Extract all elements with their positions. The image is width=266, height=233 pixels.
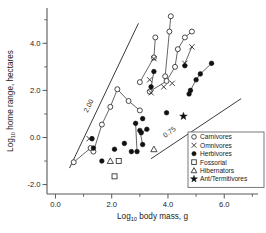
legend-label-fossorial: Fossorial — [200, 159, 227, 166]
data-point-carnivores — [153, 35, 158, 40]
legend: CarnivoresOmnivoresHerbivoresFossorialHi… — [188, 132, 264, 187]
legend-label-omnivores: Omnivores — [200, 142, 233, 149]
data-point-carnivores — [115, 87, 120, 92]
data-point-herbivores — [135, 149, 140, 154]
data-point-hibernators — [107, 158, 113, 164]
data-point-herbivores — [198, 72, 203, 77]
series-connector-herbivores — [136, 123, 137, 151]
data-point-omnivores — [161, 84, 166, 89]
data-point-carnivores — [167, 29, 172, 34]
data-point-herbivores — [139, 130, 144, 135]
data-point-herbivores — [209, 61, 214, 66]
series-connector-carnivores — [154, 37, 155, 57]
data-point-carnivores — [189, 29, 194, 34]
data-point-herbivores — [133, 121, 138, 126]
chart-figure: 0.02.04.06.0-2.00.02.04.0 2.000.75 Log10… — [0, 0, 266, 233]
data-point-herbivores — [112, 147, 117, 152]
data-point-herbivores — [140, 142, 145, 147]
x-tick-label: 4.0 — [163, 200, 174, 209]
data-point-herbivores — [122, 141, 127, 146]
legend-label-ant-termitivores: Ant/Termitivores — [200, 175, 248, 182]
data-point-carnivores — [99, 122, 104, 127]
scatter-plot: 0.02.04.06.0-2.00.02.04.0 2.000.75 Log10… — [0, 0, 266, 233]
series-connector-carnivores — [74, 148, 91, 162]
data-point-hibernators — [151, 146, 157, 152]
data-point-herbivores — [91, 146, 96, 151]
data-point-carnivores — [163, 74, 168, 79]
data-point-herbivores — [145, 127, 150, 132]
data-point-carnivores — [164, 78, 169, 83]
legend-label-carnivores: Carnivores — [200, 133, 233, 140]
data-point-carnivores — [168, 14, 173, 19]
legend-marker-carnivores — [192, 135, 197, 140]
data-point-carnivores — [182, 35, 187, 40]
y-tick-label: 4.0 — [30, 39, 41, 48]
legend-label-herbivores: Herbivores — [200, 150, 233, 157]
data-point-omnivores — [189, 44, 194, 49]
series-connector-carnivores — [165, 32, 169, 77]
reference-line-2.00 — [70, 23, 139, 168]
reference-line-label-2.00: 2.00 — [82, 98, 95, 113]
y-tick-label: 2.0 — [30, 86, 41, 95]
series-connector-omnivores — [185, 47, 192, 63]
data-point-herbivores — [183, 63, 188, 68]
data-point-carnivores — [137, 80, 142, 85]
data-point-herbivores — [149, 85, 154, 90]
data-point-herbivores — [100, 159, 105, 164]
data-point-herbivores — [90, 136, 95, 141]
series-connector-carnivores — [102, 107, 110, 125]
x-tick-label: 6.0 — [219, 200, 230, 209]
y-tick-label: 0.0 — [30, 133, 41, 142]
x-tick-label: 2.0 — [106, 200, 117, 209]
x-axis-title: Log10 body mass, g — [117, 212, 188, 222]
y-axis-title: Log10 home range, hectares — [6, 50, 16, 152]
data-point-herbivores — [188, 88, 193, 93]
legend-label-hibernators: Hibernators — [200, 167, 235, 174]
data-point-carnivores — [173, 64, 178, 69]
data-point-carnivores — [126, 99, 131, 104]
data-point-fossorial — [112, 174, 117, 179]
legend-marker-herbivores — [192, 152, 196, 156]
data-point-herbivores — [129, 149, 134, 154]
data-point-carnivores — [108, 104, 113, 109]
data-point-herbivores — [194, 78, 199, 83]
data-point-omnivores — [170, 81, 175, 86]
data-point-carnivores — [175, 47, 180, 52]
data-point-herbivores — [140, 116, 145, 121]
data-point-herbivores — [164, 110, 169, 115]
reference-line-label-0.75: 0.75 — [162, 125, 177, 139]
data-point-carnivores — [71, 160, 76, 165]
data-point-fossorial — [116, 159, 121, 164]
data-point-carnivores — [137, 108, 142, 113]
data-point-omnivores — [147, 77, 152, 82]
data-point-herbivores — [152, 69, 157, 74]
data-point-ant-termitivores — [180, 112, 188, 119]
legend-marker-fossorial — [192, 160, 197, 165]
y-tick-label: -2.0 — [27, 180, 40, 189]
x-tick-label: 0.0 — [50, 200, 61, 209]
